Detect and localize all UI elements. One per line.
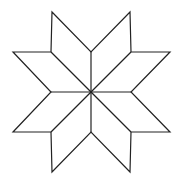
eight-pointed-star-diagram xyxy=(0,0,176,185)
